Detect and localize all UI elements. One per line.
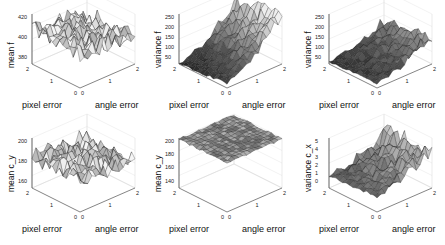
z-tick: 200 [165,24,174,30]
angle-tick: 1 [109,78,112,84]
z-tick: 400 [18,34,27,40]
z-tick: 3 [315,154,318,160]
angle-tick: 0 [378,90,381,96]
z-tick: 0 [315,178,318,184]
x-axis-label: pixel error [319,224,359,234]
angle-tick: 1 [256,78,259,84]
z-tick: 100 [315,44,324,50]
z-tick: 140 [165,178,174,184]
pixel-tick: 2 [323,190,326,196]
pixel-tick: 1 [50,202,53,208]
z-tick: 180 [165,151,174,157]
y-axis-label: angle error [95,100,139,110]
z-tick: 150 [165,34,174,40]
z-tick: 380 [18,54,27,60]
pixel-tick: 2 [173,66,176,72]
z-tick: 150 [315,34,324,40]
pixel-tick: 1 [50,78,53,84]
angle-tick: 0 [228,214,231,220]
angle-tick: 0 [378,214,381,220]
pixel-tick: 0 [74,214,77,220]
z-tick: 50 [315,54,321,60]
pixel-tick: 0 [221,214,224,220]
z-tick: 100 [165,44,174,50]
z-axis-label: variance f [303,31,313,68]
angle-tick: 1 [406,78,409,84]
surface-plot-top-left: 012012420400380pixel errorangle errormea… [0,0,148,122]
angle-tick: 1 [109,202,112,208]
z-tick: 420 [18,14,27,20]
z-tick: 200 [165,138,174,144]
z-tick: 160 [165,164,174,170]
surface-plot-bottom-middle: 012012200180160140pixel errorangle error… [147,124,295,245]
y-axis-label: angle error [242,100,286,110]
z-tick: 160 [18,178,27,184]
x-axis-label: pixel error [169,224,209,234]
z-tick: 180 [18,158,27,164]
angle-tick: 0 [228,90,231,96]
angle-tick: 2 [433,190,436,196]
angle-tick: 2 [136,190,139,196]
angle-tick: 1 [406,202,409,208]
angle-tick: 2 [433,66,436,72]
y-axis-label: angle error [392,224,436,234]
angle-tick: 0 [81,214,84,220]
x-axis-label: pixel error [169,100,209,110]
pixel-tick: 0 [74,90,77,96]
x-axis-label: pixel error [319,100,359,110]
angle-tick: 0 [81,90,84,96]
z-tick: 250 [165,14,174,20]
x-axis-label: pixel error [22,224,62,234]
z-tick: 250 [315,14,324,20]
z-tick: 4 [315,146,318,152]
pixel-tick: 1 [197,78,200,84]
angle-tick: 2 [283,66,286,72]
z-tick: 5 [315,138,318,144]
z-axis-label: mean c_y [6,155,16,192]
surface-plot-top-right: 01201225020015010050pixel errorangle err… [297,0,445,122]
pixel-tick: 1 [197,202,200,208]
pixel-tick: 1 [347,78,350,84]
z-axis-label: mean f [6,42,16,68]
pixel-tick: 0 [221,90,224,96]
z-tick: 50 [165,54,171,60]
pixel-tick: 2 [173,190,176,196]
angle-tick: 2 [136,66,139,72]
surface-plot-bottom-right: 012012543210pixel errorangle errorvarian… [297,124,445,245]
z-tick: 1 [315,170,318,176]
pixel-tick: 1 [347,202,350,208]
pixel-tick: 2 [26,66,29,72]
y-axis-label: angle error [95,224,139,234]
angle-tick: 1 [256,202,259,208]
x-axis-label: pixel error [22,100,62,110]
y-axis-label: angle error [242,224,286,234]
z-axis-label: variance c_x [303,144,313,192]
pixel-tick: 2 [323,66,326,72]
y-axis-label: angle error [392,100,436,110]
angle-tick: 2 [283,190,286,196]
z-axis-label: variance f [153,31,163,68]
pixel-tick: 2 [26,190,29,196]
pixel-tick: 0 [371,90,374,96]
surface-plot-top-middle: 01201225020015010050pixel errorangle err… [147,0,295,122]
z-tick: 200 [315,24,324,30]
z-axis-label: mean c_y [153,155,163,192]
surface-plot-bottom-left: 012012200180160pixel errorangle errormea… [0,124,148,245]
pixel-tick: 0 [371,214,374,220]
z-tick: 2 [315,162,318,168]
z-tick: 200 [18,138,27,144]
